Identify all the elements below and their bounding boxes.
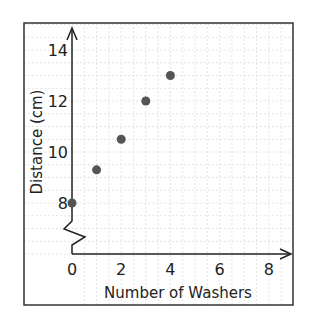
x-tick-label: 2 (116, 260, 126, 279)
y-axis (64, 30, 85, 254)
x-tick-label: 8 (264, 260, 274, 279)
data-point (68, 199, 77, 208)
y-tick-label: 12 (48, 92, 68, 111)
x-tick-label: 6 (215, 260, 225, 279)
grid-lines (24, 23, 293, 305)
data-point (141, 97, 150, 106)
x-tick-label: 4 (165, 260, 175, 279)
data-point (166, 71, 175, 80)
data-point (117, 135, 126, 144)
x-tick-label: 0 (67, 260, 77, 279)
y-tick-label: 8 (58, 194, 68, 213)
x-tick-labels: 02468 (67, 260, 274, 279)
y-axis-label: Distance (cm) (28, 90, 46, 195)
x-axis-label: Number of Washers (104, 284, 252, 302)
scatter-chart: 02468 8101214 Number of Washers Distance… (0, 0, 309, 327)
y-tick-label: 14 (48, 41, 68, 60)
y-tick-label: 10 (48, 143, 68, 162)
data-point (92, 165, 101, 174)
